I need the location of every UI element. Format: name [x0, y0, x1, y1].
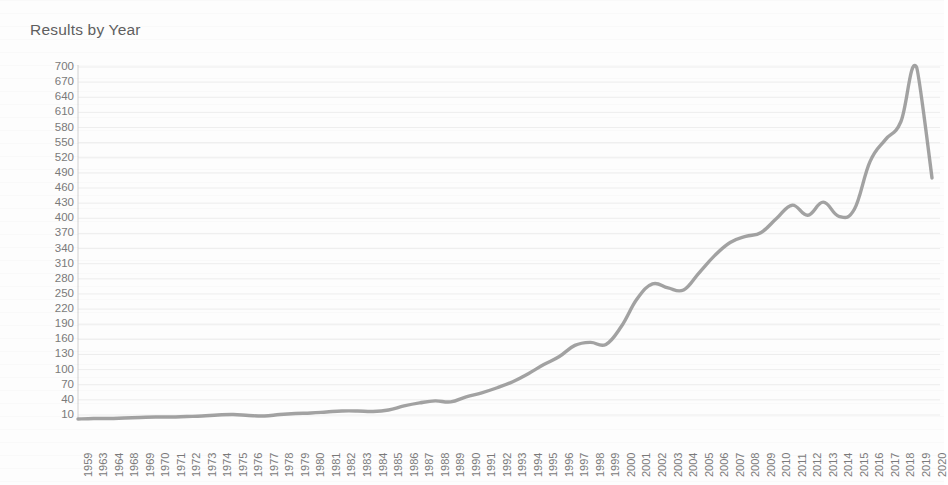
x-tick-label: 2015	[859, 453, 870, 477]
x-tick-label: 2004	[688, 453, 699, 477]
x-tick-label: 1987	[424, 453, 435, 477]
x-tick-label: 2011	[797, 453, 808, 477]
x-tick-label: 1999	[610, 453, 621, 477]
x-tick-label: 1985	[393, 453, 404, 477]
x-tick-label: 2016	[874, 453, 885, 477]
x-tick-label: 1974	[222, 453, 233, 477]
x-tick-label: 1992	[502, 453, 513, 477]
x-tick-label: 2009	[766, 453, 777, 477]
x-tick-label: 1968	[129, 453, 140, 477]
x-tick-label: 1975	[238, 453, 249, 477]
x-tick-label: 2007	[735, 453, 746, 477]
x-tick-label: 2001	[641, 453, 652, 477]
x-tick-label: 2000	[626, 453, 637, 477]
x-tick-label: 2002	[657, 453, 668, 477]
x-tick-label: 1981	[331, 453, 342, 477]
x-tick-label: 1998	[595, 453, 606, 477]
x-tick-label: 1972	[191, 453, 202, 477]
x-tick-label: 1983	[362, 453, 373, 477]
x-tick-label: 1973	[207, 453, 218, 477]
x-tick-label: 1996	[564, 453, 575, 477]
x-tick-label: 2010	[781, 453, 792, 477]
x-tick-label: 1990	[471, 453, 482, 477]
x-tick-label: 1970	[160, 453, 171, 477]
x-tick-label: 2013	[828, 453, 839, 477]
x-tick-label: 1979	[300, 453, 311, 477]
x-tick-label: 1997	[579, 453, 590, 477]
x-tick-label: 1971	[176, 453, 187, 477]
x-tick-label: 1959	[83, 453, 94, 477]
x-tick-label: 2005	[704, 453, 715, 477]
x-tick-label: 1964	[114, 453, 125, 477]
x-tick-label: 1976	[253, 453, 264, 477]
x-tick-label: 2019	[921, 453, 932, 477]
x-tick-label: 1963	[98, 453, 109, 477]
x-tick-label: 2003	[673, 453, 684, 477]
x-tick-label: 2006	[719, 453, 730, 477]
x-tick-label: 1993	[517, 453, 528, 477]
x-tick-label: 2012	[812, 453, 823, 477]
x-tick-label: 1989	[455, 453, 466, 477]
x-tick-label: 1984	[378, 453, 389, 477]
x-tick-label: 1991	[486, 453, 497, 477]
x-tick-label: 1986	[409, 453, 420, 477]
x-tick-label: 1969	[145, 453, 156, 477]
x-tick-label: 1988	[440, 453, 451, 477]
x-tick-label: 1994	[533, 453, 544, 477]
x-tick-label: 1982	[346, 453, 357, 477]
x-tick-label: 1995	[548, 453, 559, 477]
x-tick-label: 1980	[315, 453, 326, 477]
x-tick-label: 2017	[890, 453, 901, 477]
x-tick-label: 2014	[843, 453, 854, 477]
x-tick-label: 1977	[269, 453, 280, 477]
x-tick-label: 1978	[284, 453, 295, 477]
x-tick-label: 2008	[750, 453, 761, 477]
x-tick-label: 2018	[905, 453, 916, 477]
x-tick-label: 2020	[937, 453, 948, 477]
